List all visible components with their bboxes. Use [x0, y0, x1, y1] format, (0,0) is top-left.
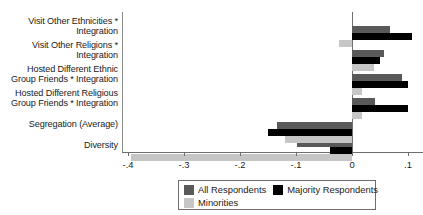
x-tick-label-2: -.2: [220, 159, 260, 170]
bar-all-4: [277, 122, 352, 129]
legend-item-maj: Majority Respondents: [273, 184, 378, 195]
x-tick-mark-1: [184, 152, 185, 156]
legend-swatch-min-icon: [184, 198, 194, 208]
category-label-0: Visit Other Ethnicities * Integration: [0, 16, 118, 37]
legend-item-all: All Respondents: [184, 184, 266, 195]
x-tick-mark-4: [352, 152, 353, 156]
x-tick-label-0: -.4: [108, 159, 148, 170]
bar-maj-4: [268, 129, 352, 136]
bar-maj-5: [330, 147, 352, 154]
bar-all-2: [352, 74, 402, 81]
legend-swatch-all-icon: [184, 185, 194, 195]
category-axis-labels: Visit Other Ethnicities * IntegrationVis…: [0, 12, 118, 152]
x-tick-mark-0: [128, 152, 129, 156]
legend-item-min: Minorities: [184, 197, 238, 208]
chart-legend: All RespondentsMajority Respondents Mino…: [178, 180, 376, 210]
x-tick-label-4: 0: [332, 159, 372, 170]
bar-min-1: [352, 64, 374, 71]
bar-min-2: [352, 88, 362, 95]
bar-maj-1: [352, 57, 380, 64]
legend-label-maj: Majority Respondents: [287, 184, 378, 195]
legend-swatch-maj-icon: [273, 185, 283, 195]
x-tick-mark-5: [408, 152, 409, 156]
legend-row-secondary: Minorities: [184, 196, 245, 209]
bar-all-3: [352, 98, 375, 105]
bar-maj-2: [352, 81, 408, 88]
legend-label-min: Minorities: [198, 197, 238, 208]
category-label-4: Segregation (Average): [0, 119, 118, 129]
bar-maj-0: [352, 33, 412, 40]
category-label-5: Diversity: [0, 140, 118, 150]
bar-all-0: [352, 26, 390, 33]
bar-chart-figure: Visit Other Ethnicities * IntegrationVis…: [0, 0, 423, 215]
plot-bottom-spine: [122, 152, 423, 153]
bar-maj-3: [352, 105, 408, 112]
bar-min-4: [285, 136, 352, 143]
plot-area: -.4-.3-.2-.10.1: [122, 12, 423, 152]
x-tick-label-1: -.3: [164, 159, 204, 170]
bar-min-3: [352, 112, 362, 119]
category-label-1: Visit Other Religions * Integration: [0, 40, 118, 61]
x-tick-label-3: -.1: [276, 159, 316, 170]
category-label-2: Hosted Different Ethnic Group Friends * …: [0, 64, 118, 85]
bar-all-1: [352, 50, 384, 57]
legend-label-all: All Respondents: [198, 184, 266, 195]
category-label-3: Hosted Different Religious Group Friends…: [0, 88, 118, 109]
x-tick-mark-3: [296, 152, 297, 156]
bar-min-0: [339, 40, 352, 47]
legend-row-primary: All RespondentsMajority Respondents: [184, 183, 385, 196]
x-tick-label-5: .1: [388, 159, 423, 170]
plot-left-spine: [122, 12, 123, 152]
x-tick-mark-2: [240, 152, 241, 156]
